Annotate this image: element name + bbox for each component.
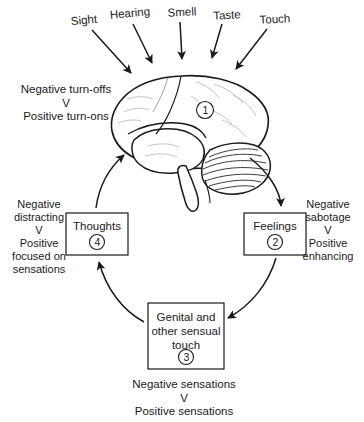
arrow-touch [236,29,267,69]
arrow-touch-to-thoughts [99,262,144,322]
sense-label-smell: Smell [162,5,203,21]
arrow-thoughts-to-brain [96,155,124,208]
box-genital-touch-label: Genital and other sensual touch [150,310,222,352]
arrow-feelings-to-touch [228,258,276,318]
brainstem [178,165,199,211]
box-thoughts-label: Thoughts [68,219,126,233]
touch-marker-number: 3 [182,351,191,363]
feelings-side-label: Negative sabotage V Positive enhancing [296,198,360,263]
temporal-lobe [132,129,204,173]
thoughts-side-label: Negative distracting V Positive focused … [6,198,72,276]
feelings-marker-number: 2 [271,236,280,248]
box-feelings-label: Feelings [246,219,304,233]
arrow-sight [92,30,131,73]
brain-side-label: Negative turn-offs V Positive turn-ons [8,83,124,124]
cycle-diagram: Sight Hearing Smell Taste Touch Negative… [0,0,364,422]
sense-label-touch: Touch [254,12,297,28]
sense-label-taste: Taste [208,8,247,24]
arrow-hearing [133,24,152,63]
touch-bottom-label: Negative sensations V Positive sensation… [114,378,254,419]
brain-marker-number: 1 [201,104,210,116]
arrow-taste [212,24,222,58]
arrow-smell [180,22,182,59]
thoughts-marker-number: 4 [93,236,102,248]
brain-illustration [111,76,270,212]
sensory-arrows [92,22,267,73]
